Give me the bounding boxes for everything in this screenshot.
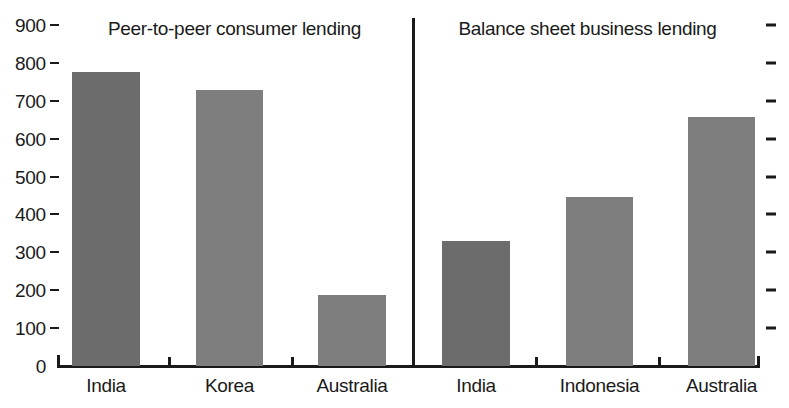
y-tick-label-300: 300 [0,243,46,262]
y-tick-label-800: 800 [0,53,46,72]
y-tick-label-600: 600 [0,129,46,148]
x-axis-label-2: Australia [316,375,387,397]
y-tick-label-900: 900 [0,16,46,35]
x-tick-3 [658,357,661,368]
y-tick-mark-right-400 [766,213,776,216]
x-tick-1 [291,357,294,368]
bar-panel-balance-sheet-australia [688,117,755,366]
plot-area [57,14,760,368]
bar-panel-balance-sheet-india [442,241,510,366]
bar-panel-peer-to-peer-korea [196,90,263,366]
y-tick-label-0: 0 [0,357,46,376]
x-axis-right-cap [757,356,760,368]
y-tick-label-200: 200 [0,281,46,300]
bar-panel-balance-sheet-indonesia [566,197,633,366]
y-tick-mark-right-700 [766,99,776,102]
bar-panel-peer-to-peer-india [72,72,140,366]
bar-chart: 0100200300400500600700800900 Peer-to-pee… [0,0,789,408]
x-axis-label-3: India [456,375,496,397]
x-tick-2 [535,357,538,368]
panel-divider [412,18,415,368]
y-tick-mark-right-600 [766,137,776,140]
x-axis-label-1: Korea [205,375,254,397]
y-tick-mark-right-800 [766,61,776,64]
y-tick-label-700: 700 [0,91,46,110]
y-tick-label-500: 500 [0,167,46,186]
x-axis-baseline [57,365,760,368]
y-tick-mark-right-300 [766,251,776,254]
x-axis-label-0: India [86,375,126,397]
y-tick-mark-right-900 [766,24,776,27]
x-tick-0 [168,357,171,368]
y-tick-mark-right-500 [766,175,776,178]
x-axis-left-cap [57,356,60,368]
y-tick-label-100: 100 [0,319,46,338]
y-tick-mark-right-200 [766,289,776,292]
y-tick-label-400: 400 [0,205,46,224]
bar-panel-peer-to-peer-australia [318,295,386,366]
x-axis-label-5: Australia [686,375,757,397]
y-tick-mark-right-100 [766,327,776,330]
x-axis-label-4: Indonesia [560,375,640,397]
